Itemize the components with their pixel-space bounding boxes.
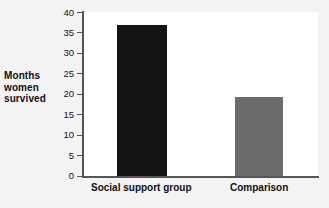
category-label-2: Comparison [230, 182, 288, 194]
y-axis-tick-label: 0 [53, 171, 74, 181]
y-axis-line [82, 11, 84, 178]
y-axis-tick-mark [77, 114, 82, 115]
y-axis-tick-label-text: 0 [53, 171, 74, 181]
y-axis-tick-label: 10 [53, 130, 74, 140]
y-axis-tick-mark [77, 73, 82, 74]
y-axis-tick-label: 35 [53, 28, 74, 38]
y-axis-tick-label: 15 [53, 110, 74, 120]
y-axis-tick-mark [77, 12, 82, 13]
y-axis-tick-mark [77, 155, 82, 156]
category-label-1: Social support group [91, 182, 192, 194]
y-axis-tick-label: 25 [53, 69, 74, 79]
y-axis-tick-label-text: 15 [53, 110, 74, 120]
y-axis-tick-mark [77, 32, 82, 33]
y-axis-tick-mark [77, 94, 82, 95]
bar-1 [117, 25, 167, 176]
y-axis-tick-mark [77, 53, 82, 54]
y-axis-tick-label-text: 5 [53, 151, 74, 161]
y-axis-tick-label-text: 25 [53, 69, 74, 79]
y-axis-tick-label: 40 [53, 8, 74, 18]
y-axis-tick-label-text: 10 [53, 130, 74, 140]
y-axis-tick-mark [77, 135, 82, 136]
y-axis-tick-label-text: 35 [53, 28, 74, 38]
x-axis-line [82, 176, 319, 178]
bar-2 [235, 97, 283, 176]
y-axis-tick-mark [77, 176, 82, 177]
y-axis-tick-label: 20 [53, 89, 74, 99]
y-axis-tick-label-text: 40 [53, 8, 74, 18]
y-axis-tick-label-text: 20 [53, 89, 74, 99]
y-axis-tick-label-text: 30 [53, 48, 74, 58]
y-axis-tick-label: 5 [53, 151, 74, 161]
y-axis-tick-label: 30 [53, 48, 74, 58]
bar-chart-figure: Months women survived 0510152025303540 S… [0, 0, 329, 208]
